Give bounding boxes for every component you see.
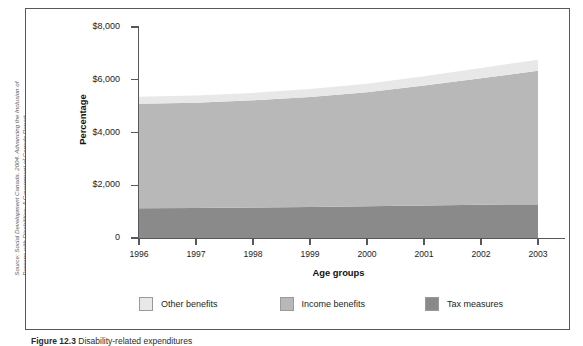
legend-label: Income benefits: [302, 299, 366, 309]
chart-legend: Other benefitsIncome benefitsTax measure…: [139, 294, 559, 314]
x-tick-label: 1997: [166, 249, 226, 259]
x-tick-label: 1998: [223, 249, 283, 259]
x-tick-label: 2002: [451, 249, 511, 259]
y-tick: [131, 26, 139, 27]
x-tick-label: 2003: [508, 249, 568, 259]
y-tick-label: 0: [50, 233, 120, 242]
y-tick: [131, 79, 139, 80]
y-tick-label: $8,000: [50, 22, 120, 31]
y-tick-label: $2,000: [50, 180, 120, 189]
area-band-tax-measures: [139, 205, 538, 238]
legend-item: Tax measures: [425, 297, 503, 311]
legend-label: Tax measures: [447, 299, 503, 309]
caption-text: Disability-related expenditures: [78, 336, 192, 346]
plot-wrapper: 0$2,000$4,000$6,000$8,000 19961997199819…: [26, 9, 571, 331]
legend-swatch-icon: [425, 297, 439, 311]
legend-item: Other benefits: [139, 297, 218, 311]
x-axis-line: [138, 238, 565, 239]
x-tick: [138, 238, 139, 245]
legend-item: Income benefits: [280, 297, 366, 311]
area-chart-svg: [139, 27, 538, 238]
caption-number: Figure 12.3: [31, 336, 76, 346]
y-tick: [131, 185, 139, 186]
legend-swatch-icon: [280, 297, 294, 311]
legend-swatch-icon: [139, 297, 153, 311]
x-tick: [480, 238, 481, 245]
x-tick: [252, 238, 253, 245]
stacked-area-plot: [139, 27, 538, 238]
x-tick: [423, 238, 424, 245]
x-axis-title: Age groups: [139, 267, 538, 278]
x-tick: [537, 238, 538, 245]
figure-frame: 0$2,000$4,000$6,000$8,000 19961997199819…: [25, 8, 570, 330]
legend-label: Other benefits: [161, 299, 218, 309]
x-tick-label: 2001: [394, 249, 454, 259]
x-tick-label: 1999: [280, 249, 340, 259]
figure-caption: Figure 12.3 Disability-related expenditu…: [31, 336, 571, 346]
y-axis-title: Percentage: [77, 60, 88, 180]
x-tick-label: 2000: [337, 249, 397, 259]
x-tick: [195, 238, 196, 245]
x-tick: [366, 238, 367, 245]
x-tick: [309, 238, 310, 245]
x-tick-label: 1996: [109, 249, 169, 259]
y-tick: [131, 132, 139, 133]
